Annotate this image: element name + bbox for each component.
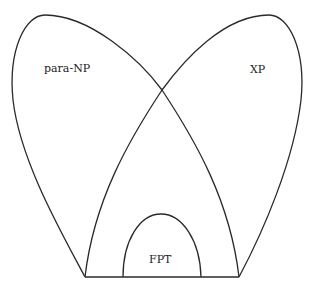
xp-label: XP — [250, 63, 266, 76]
complexity-venn-diagram: para-NP XP FPT — [0, 0, 314, 288]
fpt-label: FPT — [149, 253, 172, 266]
para-np-region-outline — [12, 15, 239, 277]
fpt-region-outline — [123, 214, 201, 277]
xp-region-outline — [85, 15, 302, 277]
para-np-label: para-NP — [44, 62, 91, 75]
